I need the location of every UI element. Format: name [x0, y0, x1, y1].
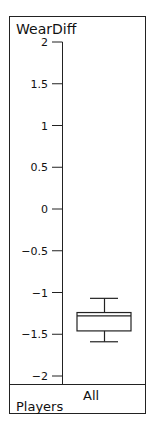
- y-tick-label: −1: [32, 287, 48, 300]
- chart-title: WearDiff: [16, 21, 77, 37]
- category-label-line1: All: [83, 388, 99, 403]
- y-tick-label: 2: [41, 36, 48, 49]
- y-tick-label: 1: [41, 120, 48, 133]
- y-tick-label: 0: [41, 203, 48, 216]
- category-label-line2: Players: [16, 399, 63, 414]
- y-tick-label: −1.5: [21, 328, 48, 341]
- y-tick-label: 1.5: [31, 78, 49, 91]
- y-tick-label: −2: [32, 370, 48, 383]
- boxplot-chart: WearDiff 21.510.50−0.5−1−1.5−2 All Playe…: [0, 0, 154, 433]
- y-tick-label: 0.5: [31, 161, 49, 174]
- chart-frame: [10, 17, 146, 414]
- y-tick-label: −0.5: [21, 245, 48, 258]
